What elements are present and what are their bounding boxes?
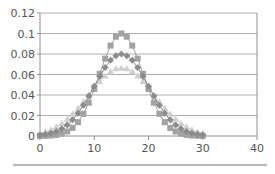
square-marker xyxy=(162,119,168,125)
y-tick-label: 0.08 xyxy=(11,48,36,61)
square-marker xyxy=(129,43,135,49)
distribution-chart: 00.020.040.060.080.10.12 010203040 xyxy=(0,0,275,174)
square-marker xyxy=(156,111,162,117)
x-tick-label: 0 xyxy=(37,142,44,155)
diamond-marker xyxy=(118,51,125,58)
square-marker xyxy=(108,43,114,49)
square-marker xyxy=(167,125,173,131)
square-marker xyxy=(86,100,92,106)
series-triangles xyxy=(37,65,207,136)
y-tick-label: 0.04 xyxy=(11,89,36,102)
gridlines xyxy=(40,13,257,116)
x-axis-ticks: 010203040 xyxy=(37,136,265,155)
square-marker xyxy=(151,100,157,106)
y-tick-label: 0.02 xyxy=(11,110,36,123)
data-series xyxy=(37,31,207,139)
y-tick-label: 0.12 xyxy=(11,7,36,20)
square-marker xyxy=(113,34,119,40)
y-tick-label: 0 xyxy=(28,130,35,143)
x-tick-label: 20 xyxy=(142,142,156,155)
square-marker xyxy=(75,119,81,125)
y-tick-label: 0.06 xyxy=(11,69,36,82)
y-tick-label: 0.1 xyxy=(18,28,36,41)
square-marker xyxy=(80,111,86,117)
square-marker xyxy=(64,128,70,134)
x-tick-label: 10 xyxy=(87,142,101,155)
square-marker xyxy=(173,128,179,134)
x-tick-label: 40 xyxy=(250,142,264,155)
y-axis-ticks: 00.020.040.060.080.10.12 xyxy=(11,7,41,143)
triangle-marker xyxy=(118,65,125,71)
square-marker xyxy=(118,31,124,37)
x-tick-label: 30 xyxy=(196,142,210,155)
square-marker xyxy=(124,34,130,40)
square-marker xyxy=(102,56,108,62)
square-marker xyxy=(135,56,141,62)
square-marker xyxy=(70,125,76,131)
